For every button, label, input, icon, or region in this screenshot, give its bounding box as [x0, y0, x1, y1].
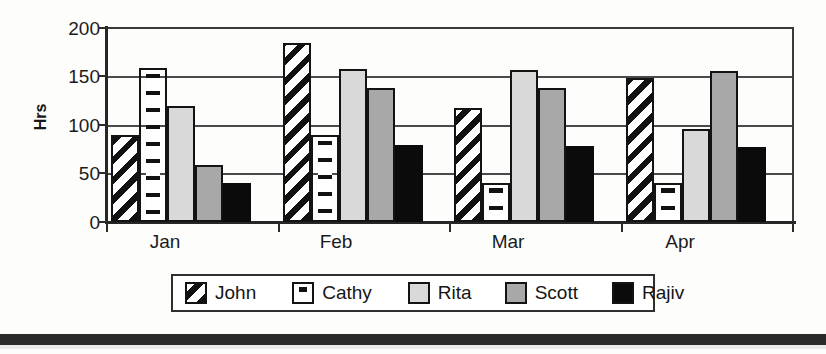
bar-apr-scott: [710, 71, 738, 222]
page-edge-shadow: [0, 345, 826, 349]
bar-mar-cathy: [482, 183, 510, 222]
x-category-label-mar: Mar: [478, 232, 538, 253]
bar-apr-john: [626, 78, 654, 222]
bar-mar-rajiv: [566, 146, 594, 222]
bar-apr-rita: [682, 129, 710, 222]
bar-jan-john: [111, 135, 139, 222]
x-tick-mark-4: [792, 223, 794, 232]
bar-jan-scott: [195, 165, 223, 222]
x-tick-mark-3: [621, 223, 623, 232]
x-category-label-apr: Apr: [650, 232, 710, 253]
grouped-bar-chart: Hrs 200 150 100 50 0 Jan Feb Mar Apr Joh…: [0, 0, 826, 354]
x-category-label-feb: Feb: [306, 232, 366, 253]
bar-feb-scott: [367, 88, 395, 222]
bar-apr-cathy: [654, 183, 682, 222]
y-tick-label-150: 150: [56, 67, 100, 86]
y-axis-title: Hrs: [32, 100, 50, 134]
x-tick-mark-0: [106, 223, 108, 232]
legend-item-scott: Scott: [505, 276, 578, 310]
bar-mar-rita: [510, 70, 538, 222]
bar-feb-cathy: [311, 135, 339, 222]
x-tick-mark-2: [449, 223, 451, 232]
bar-feb-rajiv: [395, 145, 423, 222]
y-tick-label-100: 100: [56, 116, 100, 135]
legend-swatch-cathy-icon: [292, 282, 314, 304]
legend-item-rita: Rita: [408, 276, 472, 310]
y-tick-label-0: 0: [56, 213, 100, 232]
bar-apr-rajiv: [738, 147, 766, 222]
legend-swatch-rita-icon: [408, 282, 430, 304]
legend-swatch-rajiv-icon: [612, 282, 634, 304]
legend-label-cathy: Cathy: [322, 282, 372, 304]
bar-jan-rajiv: [223, 183, 251, 222]
legend-item-rajiv: Rajiv: [612, 276, 684, 310]
legend-label-rita: Rita: [438, 282, 472, 304]
chart-legend: John Cathy Rita Scott Rajiv: [171, 274, 655, 312]
x-category-label-jan: Jan: [135, 232, 195, 253]
legend-swatch-john-icon: [185, 282, 207, 304]
legend-label-scott: Scott: [535, 282, 578, 304]
page-edge-band: [0, 334, 826, 345]
legend-label-rajiv: Rajiv: [642, 282, 684, 304]
bar-feb-john: [283, 43, 311, 222]
bar-mar-scott: [538, 88, 566, 222]
bars-layer: [107, 28, 793, 222]
y-tick-label-50: 50: [56, 164, 100, 183]
bar-jan-rita: [167, 106, 195, 222]
legend-swatch-scott-icon: [505, 282, 527, 304]
legend-item-john: John: [185, 276, 256, 310]
bar-jan-cathy: [139, 68, 167, 222]
bar-feb-rita: [339, 69, 367, 222]
y-tick-label-200: 200: [56, 19, 100, 38]
legend-label-john: John: [215, 282, 256, 304]
y-axis-tick-labels: 200 150 100 50 0: [52, 0, 100, 354]
x-tick-mark-1: [278, 223, 280, 232]
bar-mar-john: [454, 108, 482, 222]
legend-item-cathy: Cathy: [292, 276, 372, 310]
